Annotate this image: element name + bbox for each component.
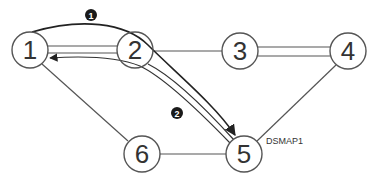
node-5-tag: DSMAP1 [266,136,303,146]
badge-label: 1 [88,11,93,21]
link-1-2 [48,46,117,53]
link-1-6 [42,64,128,141]
network-diagram: 1 2 3 4 5 6 1 2 DSMAP1 [0,0,374,183]
link-3-4 [258,47,330,56]
node-3[interactable]: 3 [222,33,258,69]
node-4[interactable]: 4 [330,33,366,69]
node-label: 1 [23,35,37,65]
node-1[interactable]: 1 [12,32,48,68]
badge-label: 2 [174,109,179,119]
node-label: 6 [135,139,149,169]
node-2[interactable]: 2 [117,32,153,68]
badge-path-1: 1 [85,9,97,21]
link-4-5 [257,65,336,141]
node-label: 3 [233,36,247,66]
node-label: 2 [128,35,142,65]
node-6[interactable]: 6 [124,136,160,172]
node-label: 5 [237,139,251,169]
node-label: 4 [341,36,355,66]
node-5[interactable]: 5 [226,136,262,172]
badge-path-2: 2 [171,107,183,119]
